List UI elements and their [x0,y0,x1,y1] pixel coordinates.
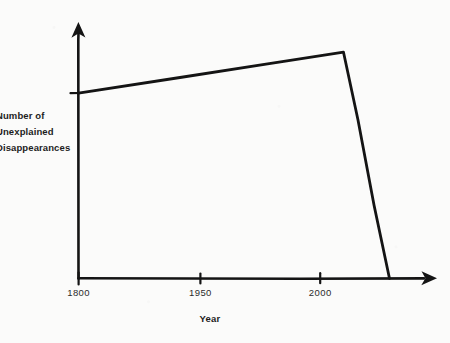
y-axis-title-line-2: Unexplained [0,124,80,140]
x-tick-label-1800: 1800 [67,287,90,298]
x-tick-label-2000: 2000 [309,287,332,298]
chart-canvas: 1800 1950 2000 Year [0,0,450,343]
chart-figure: 1800 1950 2000 Year Number of Unexplaine… [0,0,450,343]
x-axis-line [79,278,425,279]
data-series-line [79,52,390,278]
x-axis-title: Year [200,313,221,324]
y-axis-title-line-3: Disappearances [0,140,80,156]
y-axis-title-line-1: Number of [0,108,80,124]
y-axis-title: Number of Unexplained Disappearances [0,108,80,156]
x-tick-label-1950: 1950 [189,287,212,298]
